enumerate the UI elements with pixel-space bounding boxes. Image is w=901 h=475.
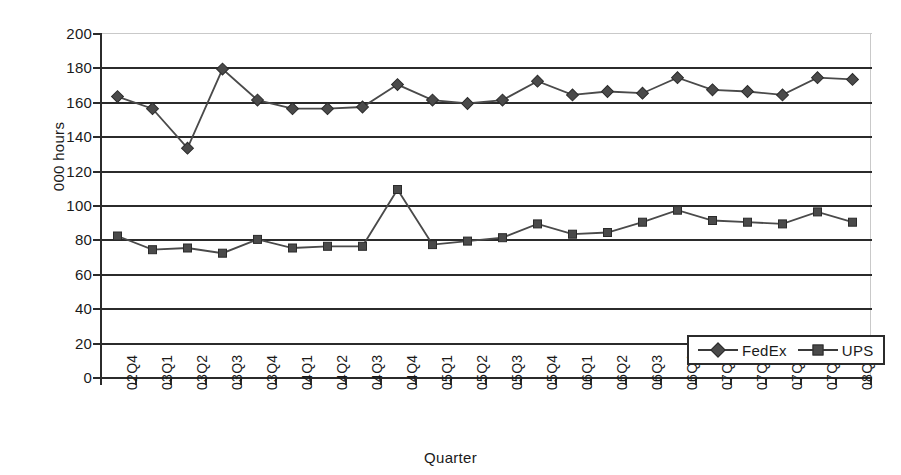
y-tick-mark (93, 274, 100, 276)
y-tick-label: 200 (32, 26, 92, 41)
gridline (102, 205, 872, 207)
x-tick-label: 05Q2 (474, 310, 490, 390)
x-tick-label: 03Q2 (194, 310, 210, 390)
gridline (102, 102, 872, 104)
gridline (102, 67, 872, 69)
x-tick-label: 05Q3 (509, 310, 525, 390)
y-tick-mark (93, 67, 100, 69)
legend-swatch-square-icon (798, 343, 838, 357)
gridline (102, 274, 872, 276)
y-tick-label: 160 (32, 94, 92, 109)
y-tick-label: 80 (32, 232, 92, 247)
gridline (102, 171, 872, 173)
x-tick-label: 06Q2 (614, 310, 630, 390)
x-tick-label: 05Q4 (544, 310, 560, 390)
y-tick-mark (93, 33, 100, 35)
gridline (102, 239, 872, 241)
y-tick-mark (93, 205, 100, 207)
gridline (102, 136, 872, 138)
x-tick-label: 04Q4 (404, 310, 420, 390)
legend-label: FedEx (742, 342, 787, 359)
x-tick-label: 03Q4 (264, 310, 280, 390)
x-tick-label: 04Q2 (334, 310, 350, 390)
y-tick-mark (93, 102, 100, 104)
y-tick-label: 180 (32, 60, 92, 75)
y-tick-label: 20 (32, 335, 92, 350)
gridline (102, 33, 872, 34)
legend-swatch-diamond-icon (698, 343, 738, 357)
chart-page: 000 hours 020406080100120140160180200 02… (0, 0, 901, 475)
legend-entry-fedex[interactable]: FedEx (698, 342, 787, 359)
x-tick-label: 06Q1 (579, 310, 595, 390)
legend-marker-diamond-icon (710, 342, 726, 358)
y-tick-label: 120 (32, 163, 92, 178)
x-tick-label: 02Q4 (124, 310, 140, 390)
y-tick-label: 40 (32, 301, 92, 316)
x-tick-label: 03Q1 (159, 310, 175, 390)
y-tick-label: 140 (32, 129, 92, 144)
y-tick-mark (93, 308, 100, 310)
x-tick-label: 04Q1 (299, 310, 315, 390)
y-tick-label: 0 (32, 370, 92, 385)
legend-entry-ups[interactable]: UPS (798, 342, 874, 359)
y-tick-label: 100 (32, 198, 92, 213)
y-tick-mark (93, 377, 100, 379)
x-tick-label: 04Q3 (369, 310, 385, 390)
y-tick-mark (93, 239, 100, 241)
x-tick-label: 03Q3 (229, 310, 245, 390)
x-tick-label: 06Q3 (649, 310, 665, 390)
y-tick-label: 60 (32, 266, 92, 281)
legend-marker-square-icon (812, 345, 823, 356)
y-tick-mark (93, 136, 100, 138)
chart-legend[interactable]: FedExUPS (687, 335, 885, 365)
y-tick-mark (93, 171, 100, 173)
x-tick-mark (100, 377, 102, 385)
y-tick-mark (93, 343, 100, 345)
legend-label: UPS (842, 342, 874, 359)
x-axis-title: Quarter (0, 449, 901, 466)
x-tick-label: 05Q1 (439, 310, 455, 390)
